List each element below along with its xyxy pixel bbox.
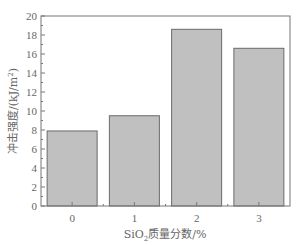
y-tick-label: 10 bbox=[26, 105, 38, 117]
y-tick-label: 6 bbox=[32, 143, 38, 155]
bar-2 bbox=[172, 29, 222, 206]
x-tick-label: 2 bbox=[194, 212, 200, 224]
bar-3 bbox=[234, 48, 284, 206]
bars bbox=[47, 29, 284, 206]
x-tick-label: 1 bbox=[132, 212, 138, 224]
y-tick-label: 14 bbox=[26, 67, 38, 79]
y-tick-label: 12 bbox=[26, 86, 37, 98]
x-tick-label: 0 bbox=[69, 212, 75, 224]
bar-0 bbox=[47, 131, 97, 206]
y-tick-label: 2 bbox=[32, 181, 38, 193]
bar-1 bbox=[109, 116, 159, 206]
x-tick-label: 3 bbox=[256, 212, 262, 224]
y-tick-label: 4 bbox=[32, 162, 38, 174]
y-tick-label: 0 bbox=[32, 200, 38, 212]
y-tick-label: 16 bbox=[26, 48, 38, 60]
bar-chart: 02468101214161820 0123 SiO2质量分数/% 冲击强度/(… bbox=[0, 0, 305, 245]
y-axis: 02468101214161820 bbox=[26, 10, 45, 212]
y-axis-title: 冲击强度/(kJ/m2) bbox=[6, 68, 20, 154]
y-tick-label: 20 bbox=[26, 10, 38, 22]
x-axis-title: SiO2质量分数/% bbox=[124, 228, 207, 243]
x-axis: 0123 bbox=[69, 202, 262, 224]
y-tick-label: 8 bbox=[32, 124, 38, 136]
y-tick-label: 18 bbox=[26, 29, 38, 41]
